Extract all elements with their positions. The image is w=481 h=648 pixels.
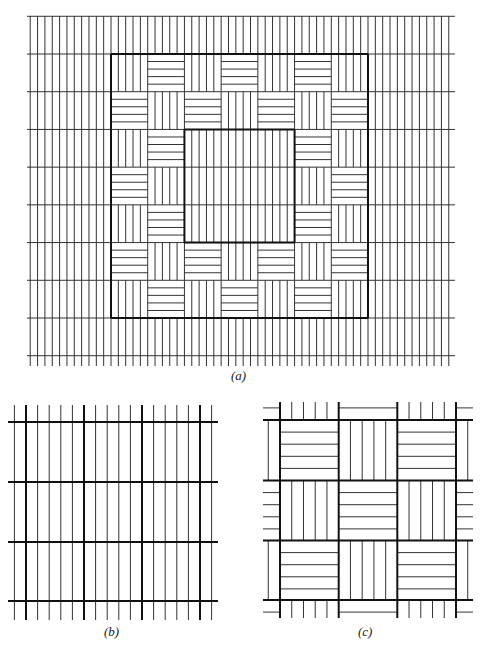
- figure-canvas: [0, 0, 481, 648]
- panel-c-pattern: [263, 402, 473, 618]
- caption-b: (b): [104, 624, 119, 640]
- panel-a-pattern: [27, 16, 455, 366]
- caption-a: (a): [231, 368, 246, 384]
- caption-c: (c): [358, 624, 372, 640]
- panel-b-pattern: [8, 405, 218, 620]
